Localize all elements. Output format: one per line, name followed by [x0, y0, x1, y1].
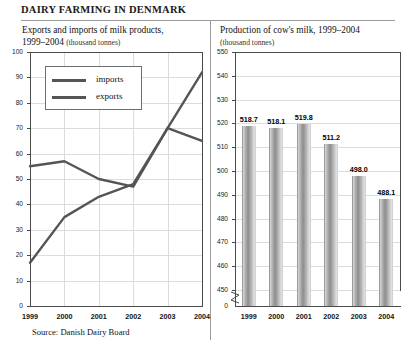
y-axis-tick-label: 20	[2, 251, 23, 258]
bar-plot-area: 4504604704804905005105205305405500518.71…	[235, 52, 400, 306]
y-axis-tick-label: 520	[207, 119, 228, 126]
x-axis-tick-label: 1999	[14, 312, 46, 321]
legend-label-imports: imports	[96, 74, 124, 84]
gridline-y	[235, 100, 400, 101]
gridline-y	[235, 219, 400, 220]
bar	[352, 176, 366, 306]
legend-swatch-exports	[52, 96, 86, 99]
left-chart-title-line1: Exports and imports of milk products,	[22, 25, 164, 35]
x-axis-tick-label: 2001	[83, 312, 115, 321]
legend-swatch-imports	[52, 79, 86, 82]
y-axis-tick-label: 100	[2, 48, 23, 55]
line-series-exports	[30, 128, 202, 186]
page-title: DAIRY FARMING IN DENMARK	[21, 4, 186, 15]
legend-label-exports: exports	[96, 91, 123, 101]
y-axis-tick-label: 500	[207, 167, 228, 174]
source-note: Source: Danish Dairy Board	[32, 327, 130, 337]
y-axis-tick-label: 450	[207, 286, 228, 293]
gridline-y	[235, 290, 400, 291]
y-axis-tick-label: 480	[207, 215, 228, 222]
gridline-y	[235, 147, 400, 148]
line-chart-panel: Exports and imports of milk products, 19…	[0, 0, 210, 355]
x-axis-tick-label: 2002	[117, 312, 149, 321]
x-axis-tick-label: 2000	[48, 312, 80, 321]
left-chart-units: (thousand tonnes)	[66, 38, 120, 47]
y-axis-tick-label: 460	[207, 262, 228, 269]
right-chart-units: (thousand tonnes)	[220, 38, 274, 47]
bar-value-label: 498.0	[341, 165, 377, 174]
y-axis-tick-label: 470	[207, 238, 228, 245]
bar	[379, 199, 393, 306]
y-axis-tick-label: 30	[2, 226, 23, 233]
bar-value-label: 511.2	[313, 133, 349, 142]
left-chart-title-line2: 1999–2004	[22, 37, 64, 47]
gridline-y	[235, 76, 400, 77]
y-axis-tick-label: 550	[207, 48, 228, 55]
y-axis-tick-label: 50	[2, 175, 23, 182]
figure-root: DAIRY FARMING IN DENMARK Exports and imp…	[0, 0, 416, 355]
y-axis-tick-label: 40	[2, 200, 23, 207]
y-axis-tick-label: 510	[207, 143, 228, 150]
right-chart-title: Production of cow's milk, 1999–2004 (tho…	[220, 25, 410, 48]
y-axis-tick-label: 0	[2, 302, 23, 309]
y-axis-tick-label: 540	[207, 72, 228, 79]
y-axis-tick-label: 530	[207, 96, 228, 103]
plot-right-border	[400, 52, 401, 291]
x-axis-tick-label: 2004	[370, 312, 402, 321]
y-axis-tick-label: 70	[2, 124, 23, 131]
y-axis-tick-label: 80	[2, 99, 23, 106]
bar-value-label: 488.1	[368, 188, 404, 197]
y-axis-tick-label: 490	[207, 191, 228, 198]
gridline-y	[235, 266, 400, 267]
bar	[242, 126, 256, 306]
y-axis	[235, 52, 236, 307]
plot-top-border	[235, 52, 401, 53]
gridline-y	[235, 242, 400, 243]
bar	[297, 124, 311, 306]
y-axis-tick-label: 90	[2, 73, 23, 80]
y-axis-zero-label: 0	[207, 302, 228, 309]
bar	[269, 128, 283, 306]
chart-legend: imports exports	[45, 66, 142, 110]
x-axis-tick-label: 2003	[152, 312, 184, 321]
left-chart-title: Exports and imports of milk products, 19…	[22, 25, 202, 48]
header-divider	[21, 20, 395, 21]
bar	[324, 144, 338, 306]
x-axis	[235, 306, 401, 307]
y-axis-tick-label: 10	[2, 277, 23, 284]
x-axis-tick-label: 2004	[186, 312, 218, 321]
right-chart-title-line1: Production of cow's milk, 1999–2004	[220, 25, 360, 35]
y-axis-tick-label: 60	[2, 150, 23, 157]
bar-value-label: 519.8	[286, 113, 322, 122]
